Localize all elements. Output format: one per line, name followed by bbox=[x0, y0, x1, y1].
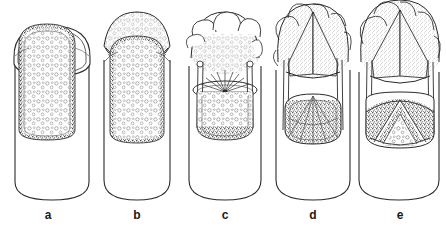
figure-illustration bbox=[0, 0, 446, 232]
panel-c-strut-node-left bbox=[197, 61, 203, 67]
panel-c-strut-node-right bbox=[247, 61, 253, 67]
panel-e bbox=[358, 0, 442, 200]
panel-b bbox=[100, 8, 178, 200]
panel-a bbox=[14, 22, 94, 200]
panel-c bbox=[186, 6, 266, 200]
panel-e-interior bbox=[366, 90, 434, 152]
panel-d bbox=[273, 0, 354, 200]
figure-root: a b c d e bbox=[0, 0, 446, 232]
